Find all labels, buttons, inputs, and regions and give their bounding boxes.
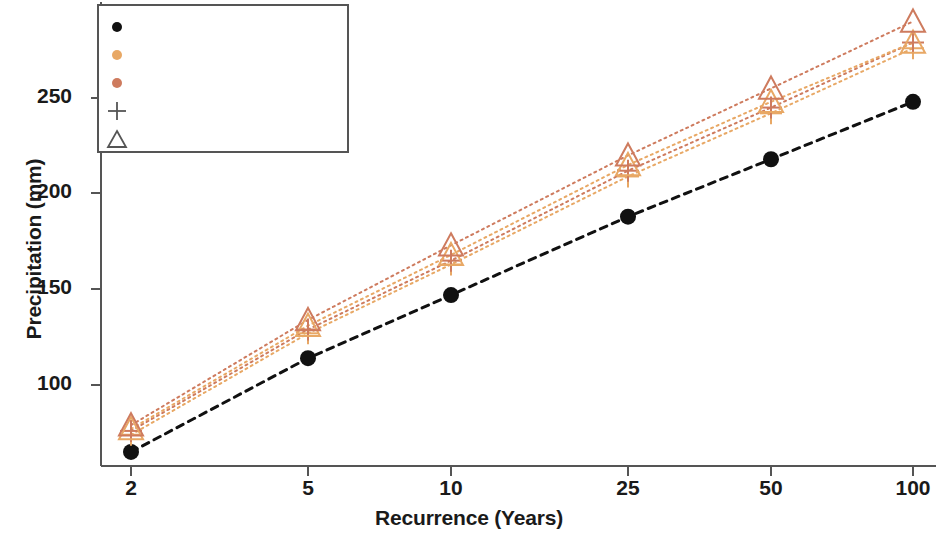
legend-marker-era5-icon <box>112 22 122 32</box>
plot-area <box>0 0 938 534</box>
data-point <box>760 97 782 119</box>
data-point <box>620 209 636 225</box>
data-point <box>443 287 459 303</box>
data-point <box>300 350 316 366</box>
x-axis-ticks <box>131 466 913 476</box>
legend-box <box>98 5 348 152</box>
data-point <box>617 160 639 182</box>
data-point <box>902 32 924 54</box>
precipitation-recurrence-chart: Precipitation (mm) Recurrence (Years) 10… <box>0 0 938 534</box>
data-point <box>759 76 783 98</box>
data-point <box>763 151 779 167</box>
legend-marker-rcp45-icon <box>112 50 122 60</box>
series-line-era5 <box>131 102 913 452</box>
data-point <box>901 9 925 31</box>
data-point <box>123 444 139 460</box>
data-point <box>905 94 921 110</box>
legend-marker-rcp85-icon <box>112 78 122 88</box>
